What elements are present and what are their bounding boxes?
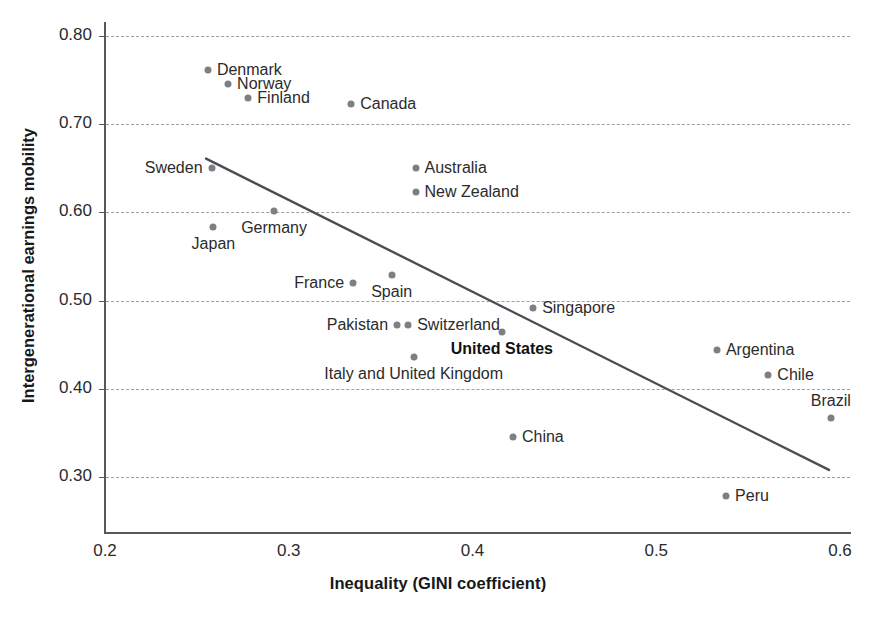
data-point-label: Finland (257, 90, 309, 106)
data-point-label: China (522, 429, 564, 445)
gridline-y (106, 36, 850, 37)
data-point (204, 67, 211, 74)
data-point (713, 346, 720, 353)
data-point-label: France (294, 275, 344, 291)
x-tick-label: 0.5 (644, 541, 668, 561)
data-point-label: Switzerland (417, 317, 500, 333)
data-point-label: Germany (241, 220, 307, 236)
data-point-label: Australia (425, 160, 487, 176)
x-axis-line (104, 532, 851, 534)
y-tick-label: 0.60 (36, 201, 92, 221)
data-point-label: Pakistan (327, 317, 388, 333)
data-point-label: Chile (777, 367, 813, 383)
data-point (394, 322, 401, 329)
y-axis-line (104, 22, 106, 534)
y-tick-label: 0.30 (36, 466, 92, 486)
gridline-y (106, 389, 850, 390)
scatter-chart: 0.300.400.500.600.700.80 0.20.30.40.50.6… (0, 0, 876, 619)
gridline-y (106, 477, 850, 478)
data-point (210, 224, 217, 231)
data-point (530, 304, 537, 311)
y-tick-label: 0.40 (36, 378, 92, 398)
data-point (225, 80, 232, 87)
data-point (208, 165, 215, 172)
data-point (412, 189, 419, 196)
data-point-label: Japan (192, 236, 236, 252)
y-tick-label: 0.50 (36, 290, 92, 310)
data-point (509, 434, 516, 441)
data-point-label: Italy and United Kingdom (324, 366, 503, 382)
x-tick-label: 0.2 (93, 541, 117, 561)
trendline (0, 0, 876, 619)
gridline-y (106, 124, 850, 125)
y-tick-label: 0.80 (36, 25, 92, 45)
data-point (405, 322, 412, 329)
data-point-label: Argentina (726, 342, 795, 358)
data-point (348, 100, 355, 107)
gridline-y (106, 212, 850, 213)
data-point (271, 207, 278, 214)
data-point (723, 492, 730, 499)
y-tick-label: 0.70 (36, 113, 92, 133)
data-point (350, 279, 357, 286)
data-point (765, 371, 772, 378)
gridline-y (106, 301, 850, 302)
data-point (827, 414, 834, 421)
x-tick-label: 0.4 (461, 541, 485, 561)
data-point-label: Singapore (542, 300, 615, 316)
data-point (388, 272, 395, 279)
data-point-label: Canada (360, 96, 416, 112)
data-point-label: Brazil (811, 393, 851, 409)
data-point-label: Spain (371, 284, 412, 300)
data-point-label: Peru (735, 488, 769, 504)
data-point (412, 165, 419, 172)
data-point-label: Sweden (145, 160, 203, 176)
x-tick-label: 0.6 (828, 541, 852, 561)
data-point (410, 354, 417, 361)
data-point-label: New Zealand (425, 184, 519, 200)
data-point-label: United States (451, 341, 553, 357)
x-tick-label: 0.3 (277, 541, 301, 561)
data-point (245, 94, 252, 101)
y-axis-title: Intergenerational earnings mobility (19, 6, 38, 526)
x-axis-title: Inequality (GINI coefficient) (0, 574, 876, 593)
data-point (498, 329, 505, 336)
